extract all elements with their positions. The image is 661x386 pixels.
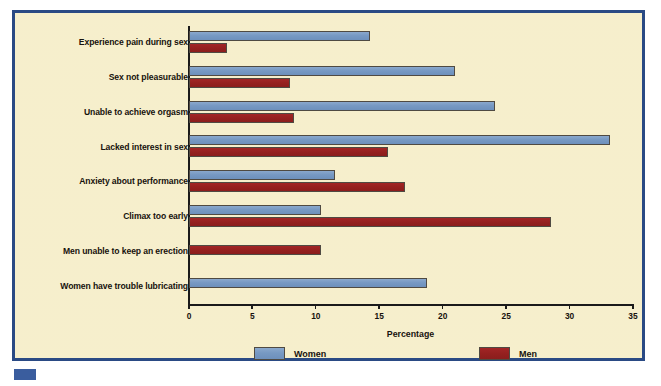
bar-row: Experience pain during sex bbox=[15, 26, 648, 61]
x-tick-mark bbox=[569, 304, 571, 309]
category-label: Men unable to keep an erection bbox=[23, 247, 188, 256]
x-axis-ticks: 05101520253035 bbox=[15, 304, 648, 330]
bar-row: Climax too early bbox=[15, 200, 648, 235]
bar-group bbox=[189, 96, 639, 131]
bar-group bbox=[189, 165, 639, 200]
bar-row: Unable to achieve orgasm bbox=[15, 96, 648, 131]
bar-women bbox=[189, 66, 455, 76]
x-tick-label: 10 bbox=[311, 311, 320, 321]
category-label: Anxiety about performance bbox=[23, 178, 188, 187]
bar-group bbox=[189, 130, 639, 165]
figure-background: Experience pain during sexSex not pleasu… bbox=[15, 13, 642, 358]
corner-marker bbox=[14, 369, 36, 380]
legend-label-men: Men bbox=[519, 349, 537, 359]
bar-men bbox=[189, 182, 405, 192]
bar-row: Women have trouble lubricating bbox=[15, 269, 648, 304]
bar-row: Sex not pleasurable bbox=[15, 61, 648, 96]
x-tick-mark bbox=[315, 304, 317, 309]
bar-group bbox=[189, 269, 639, 304]
category-label: Unable to achieve orgasm bbox=[23, 108, 188, 117]
x-tick-mark bbox=[632, 304, 634, 309]
x-tick-label: 5 bbox=[250, 311, 255, 321]
men-swatch-icon bbox=[479, 347, 510, 360]
category-label: Climax too early bbox=[23, 212, 188, 221]
bar-women bbox=[189, 170, 335, 180]
legend-item-women: Women bbox=[254, 347, 326, 360]
x-tick-label: 25 bbox=[501, 311, 510, 321]
x-axis-title: Percentage bbox=[188, 329, 633, 339]
bar-men bbox=[189, 245, 321, 255]
bar-men bbox=[189, 147, 388, 157]
x-tick-mark bbox=[442, 304, 444, 309]
figure-frame: Experience pain during sexSex not pleasu… bbox=[12, 10, 645, 361]
x-tick-mark bbox=[251, 304, 253, 309]
bar-row: Anxiety about performance bbox=[15, 165, 648, 200]
x-tick-label: 30 bbox=[565, 311, 574, 321]
bar-women bbox=[189, 278, 427, 288]
legend-item-men: Men bbox=[479, 347, 537, 360]
legend-label-women: Women bbox=[294, 349, 326, 359]
category-label: Women have trouble lubricating bbox=[23, 282, 188, 291]
x-tick-label: 15 bbox=[375, 311, 384, 321]
bar-women bbox=[189, 101, 495, 111]
chart-legend: Women Men bbox=[15, 347, 648, 367]
category-label: Sex not pleasurable bbox=[23, 73, 188, 82]
bar-women bbox=[189, 31, 370, 41]
bar-men bbox=[189, 217, 551, 227]
bar-women bbox=[189, 205, 321, 215]
x-tick-label: 0 bbox=[187, 311, 192, 321]
bar-group bbox=[189, 200, 639, 235]
category-label: Lacked interest in sex bbox=[23, 143, 188, 152]
x-tick-label: 35 bbox=[628, 311, 637, 321]
bar-row: Men unable to keep an erection bbox=[15, 235, 648, 270]
category-label: Experience pain during sex bbox=[23, 39, 188, 48]
bar-group bbox=[189, 26, 639, 61]
bar-rows: Experience pain during sexSex not pleasu… bbox=[15, 26, 648, 304]
bar-men bbox=[189, 78, 290, 88]
women-swatch-icon bbox=[254, 347, 285, 360]
x-tick-mark bbox=[378, 304, 380, 309]
bar-group bbox=[189, 235, 639, 270]
bar-women bbox=[189, 135, 610, 145]
x-tick-label: 20 bbox=[438, 311, 447, 321]
bar-men bbox=[189, 43, 227, 53]
x-tick-mark bbox=[505, 304, 507, 309]
x-tick-mark bbox=[188, 304, 190, 309]
bar-group bbox=[189, 61, 639, 96]
bar-row: Lacked interest in sex bbox=[15, 130, 648, 165]
bar-men bbox=[189, 113, 294, 123]
plot-area: Experience pain during sexSex not pleasu… bbox=[15, 13, 642, 358]
